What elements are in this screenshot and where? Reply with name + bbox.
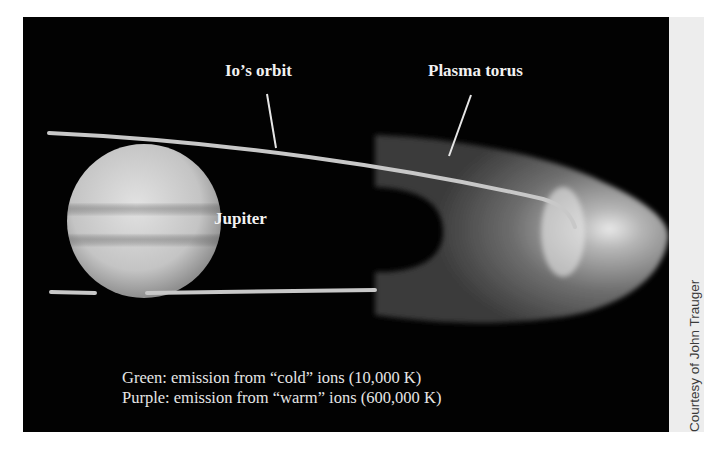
figure-panel: Io’s orbit Plasma torus Jupiter Green: e… bbox=[23, 17, 669, 432]
image-credit: Courtesy of John Trauger bbox=[687, 280, 702, 432]
plasma-torus-label: Plasma torus bbox=[428, 61, 523, 81]
figure-caption: Green: emission from “cold” ions (10,000… bbox=[122, 368, 441, 408]
jupiter-label: Jupiter bbox=[214, 209, 267, 229]
io-orbit-leader bbox=[267, 94, 276, 148]
caption-green: Green: emission from “cold” ions (10,000… bbox=[122, 368, 441, 388]
plasma-torus bbox=[375, 135, 668, 323]
caption-purple: Purple: emission from “warm” ions (600,0… bbox=[122, 388, 441, 408]
jupiter bbox=[67, 144, 221, 298]
io-orbit-label: Io’s orbit bbox=[225, 61, 292, 81]
